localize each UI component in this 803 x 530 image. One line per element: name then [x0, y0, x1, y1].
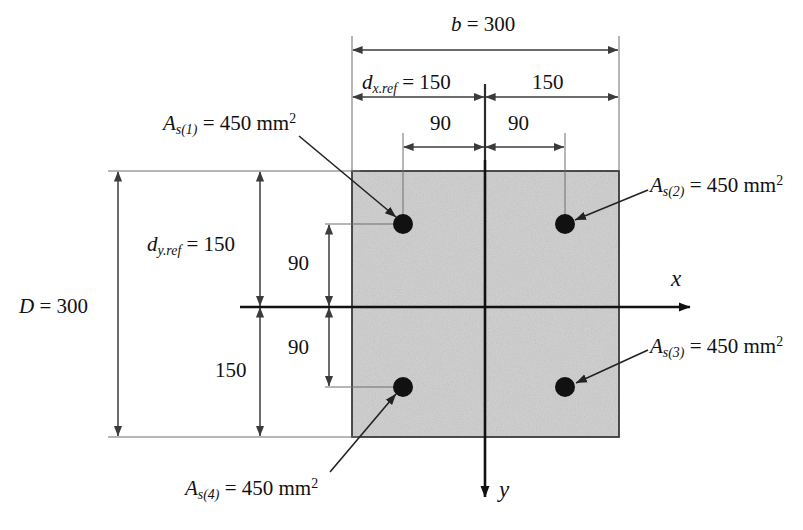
label-D-300: D = 300 [19, 296, 88, 317]
label-as2: As(2) = 450 mm2 [650, 174, 783, 199]
symbol-d: d [362, 70, 373, 94]
label-offset-top-left-90: 90 [430, 113, 451, 134]
label-dx-right-150: 150 [532, 72, 564, 93]
label-as4: As(4) = 450 mm2 [185, 477, 318, 502]
label-dyref-150: dy.ref = 150 [147, 234, 235, 258]
label-as1: As(1) = 450 mm2 [163, 112, 296, 137]
label-offset-lower-90: 90 [288, 337, 309, 358]
label-offset-top-right-90: 90 [508, 113, 529, 134]
label-b-300: b = 300 [451, 14, 515, 35]
label-dy-bottom-150: 150 [215, 360, 247, 381]
label-as3: As(3) = 450 mm2 [650, 335, 783, 360]
symbol-D: D [19, 294, 34, 318]
label-axis-x: x [671, 267, 681, 290]
symbol-b: b [451, 12, 462, 36]
rebar-as3 [555, 377, 575, 397]
label-dxref-150: dx.ref = 150 [362, 72, 451, 96]
dimension-D-300 [108, 171, 360, 437]
label-offset-upper-90: 90 [288, 253, 309, 274]
label-axis-y: y [499, 478, 509, 501]
rebar-as2 [555, 214, 575, 234]
figure-canvas: b = 300 dx.ref = 150 150 90 90 D = 300 d… [0, 0, 803, 530]
